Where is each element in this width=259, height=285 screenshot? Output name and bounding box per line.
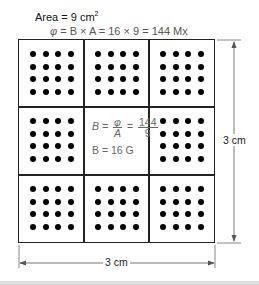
arrow-down-icon xyxy=(232,235,237,242)
bottom-divider xyxy=(0,281,259,285)
arrow-right-icon xyxy=(208,261,215,266)
arrow-left-icon xyxy=(19,261,26,266)
arrow-up-icon xyxy=(232,41,237,48)
dimension-label-height: 3 cm xyxy=(221,134,248,146)
flux-density-diagram: Area = 9 cm2 φ = B × A = 16 × 9 = 144 Mx… xyxy=(0,0,259,285)
dimension-label-width: 3 cm xyxy=(103,256,130,268)
